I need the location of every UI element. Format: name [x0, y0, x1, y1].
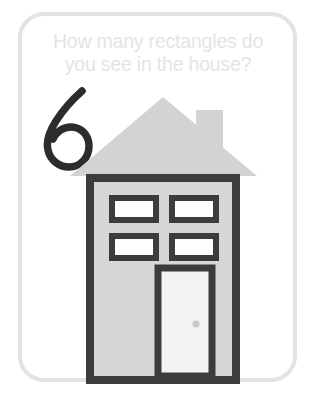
door [158, 268, 212, 376]
window-bottom-left [112, 236, 156, 258]
worksheet-card-page: How many rectangles do you see in the ho… [0, 0, 316, 394]
roof-icon [70, 97, 257, 176]
doorknob-icon [192, 320, 199, 327]
house-illustration [0, 88, 316, 388]
window-bottom-right [172, 236, 216, 258]
window-top-left [112, 198, 156, 220]
question-text: How many rectangles do you see in the ho… [30, 30, 286, 76]
window-top-right [172, 198, 216, 220]
